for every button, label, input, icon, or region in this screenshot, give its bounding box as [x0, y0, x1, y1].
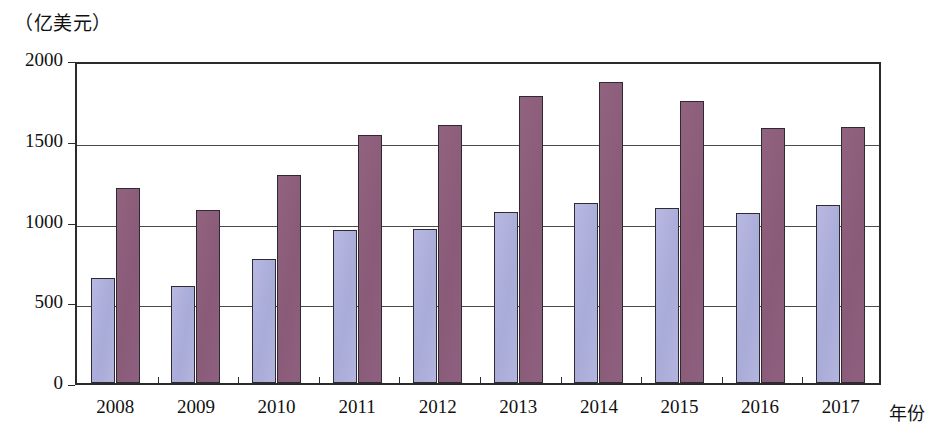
bar-2012-series-1 — [413, 229, 437, 383]
x-axis-tick-label-2014: 2014 — [559, 396, 639, 418]
x-axis-tick-label-2016: 2016 — [720, 396, 800, 418]
y-axis-tick-label: 500 — [35, 291, 64, 313]
x-axis-tick-mark — [158, 377, 159, 383]
plot-area — [75, 62, 881, 385]
bar-2016-series-2 — [761, 128, 785, 383]
y-axis-tick-label: 1500 — [25, 130, 63, 152]
x-axis-tick-label-2012: 2012 — [398, 396, 478, 418]
y-axis-tick-label: 0 — [54, 372, 64, 394]
bar-2008-series-2 — [116, 188, 140, 383]
bar-2015-series-2 — [680, 101, 704, 383]
x-axis-tick-label-2017: 2017 — [801, 396, 881, 418]
x-axis-tick-mark — [238, 377, 239, 383]
x-axis-tick-label-2011: 2011 — [317, 396, 397, 418]
y-axis-tick-label: 1000 — [25, 211, 63, 233]
bar-2013-series-1 — [494, 212, 518, 383]
x-axis-tick-mark — [399, 377, 400, 383]
x-axis-tick-mark — [480, 377, 481, 383]
bar-2017-series-2 — [841, 127, 865, 383]
x-axis-tick-mark — [319, 377, 320, 383]
y-axis-tick-mark — [68, 224, 75, 225]
bar-2009-series-1 — [171, 286, 195, 383]
bar-2010-series-1 — [252, 259, 276, 383]
bar-2014-series-1 — [574, 203, 598, 383]
x-axis-tick-label-2010: 2010 — [237, 396, 317, 418]
y-axis-unit-label: （亿美元） — [14, 8, 112, 35]
bar-2016-series-1 — [736, 213, 760, 383]
y-axis-tick-mark — [68, 385, 75, 386]
gridline — [77, 145, 879, 146]
x-axis-tick-label-2015: 2015 — [640, 396, 720, 418]
bar-2008-series-1 — [91, 278, 115, 383]
bar-2011-series-2 — [358, 135, 382, 383]
x-axis-tick-label-2013: 2013 — [478, 396, 558, 418]
bar-chart-figure: （亿美元） 年份 0500100015002000200820092010201… — [0, 0, 949, 447]
y-axis-tick-mark — [68, 143, 75, 144]
x-axis-title: 年份 — [889, 399, 925, 425]
bar-2017-series-1 — [816, 205, 840, 383]
x-axis-tick-label-2009: 2009 — [156, 396, 236, 418]
y-axis-tick-label: 2000 — [25, 49, 63, 71]
x-axis-tick-mark — [641, 377, 642, 383]
bar-2014-series-2 — [599, 82, 623, 383]
y-axis-tick-mark — [68, 62, 75, 63]
bar-2010-series-2 — [277, 175, 301, 383]
bar-2012-series-2 — [438, 125, 462, 383]
x-axis-tick-label-2008: 2008 — [75, 396, 155, 418]
bar-2009-series-2 — [196, 210, 220, 383]
bar-2013-series-2 — [519, 96, 543, 383]
x-axis-tick-mark — [722, 377, 723, 383]
x-axis-tick-mark — [802, 377, 803, 383]
x-axis-tick-mark — [561, 377, 562, 383]
bar-2015-series-1 — [655, 208, 679, 383]
y-axis-tick-mark — [68, 304, 75, 305]
bar-2011-series-1 — [333, 230, 357, 383]
